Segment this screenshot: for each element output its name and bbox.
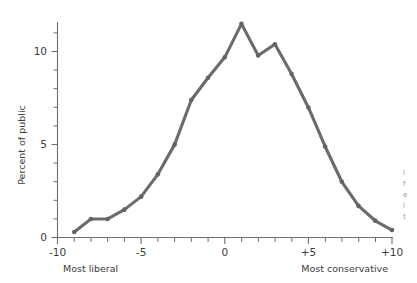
y-tick-label-10: 10 [34,45,47,57]
data-point [356,204,361,209]
y-axis-major-ticks [52,52,58,238]
data-point [390,228,395,233]
y-axis-minor-ticks [54,33,58,219]
data-point [289,72,294,77]
data-point [172,142,177,147]
x-axis-left-anchor-label: Most liberal [63,263,118,274]
data-point [323,144,328,149]
x-axis-right-anchor-label: Most conservative [301,263,388,274]
y-tick-label-0: 0 [40,231,47,243]
data-point [373,218,378,223]
edge-text-fragment: t [403,212,417,223]
x-tick-label-plus10: +10 [381,246,403,258]
data-point [306,105,311,110]
data-point [139,194,144,199]
data-point [256,53,261,58]
data-point [340,179,345,184]
data-point [89,217,94,222]
data-point [105,217,110,222]
y-axis-title: Percent of public [16,105,27,185]
data-point [156,172,161,177]
edge-text-fragment: e [403,190,417,201]
edge-text-fragment: f [403,179,417,190]
data-point [189,98,194,103]
distribution-line-chart: 0 5 10 Percent of public [0,0,417,283]
data-point [239,22,244,27]
data-vertices [72,22,394,235]
y-tick-label-5: 5 [40,138,47,150]
data-point [206,75,211,80]
clipped-edge-text: lfelt [403,168,417,223]
data-line [74,24,392,232]
x-tick-label-zero: 0 [221,246,228,258]
edge-text-fragment: l [403,201,417,212]
data-point [273,42,278,47]
edge-text-fragment: l [403,168,417,179]
x-tick-label-plus5: +5 [301,246,316,258]
data-point [222,55,227,60]
chart-figure: 0 5 10 Percent of public [0,0,417,283]
x-tick-label-minus10: -10 [49,246,66,258]
data-point [122,207,127,212]
data-point [72,230,77,235]
x-tick-label-minus5: -5 [136,246,146,258]
